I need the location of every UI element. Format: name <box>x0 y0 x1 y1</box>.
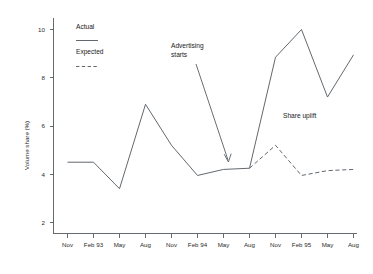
volume-share-line-chart: 10 8 6 4 2 Volume share (%) Nov Feb 93 M… <box>0 0 373 274</box>
x-tick-group: Nov Feb 93 May Aug Nov Feb 94 May Aug No… <box>62 234 360 249</box>
y-tick-label-10: 10 <box>38 26 45 33</box>
y-tick-label-4: 4 <box>42 171 46 178</box>
x-tick-label-0: Nov <box>62 241 74 248</box>
legend-label-expected: Expected <box>76 48 104 56</box>
x-tick-label-8: Nov <box>270 241 282 248</box>
y-tick-group: 10 8 6 4 2 <box>38 26 53 226</box>
x-tick-label-9: Feb 95 <box>292 241 312 248</box>
annotation-advertising-starts-line1: Advertising <box>171 42 204 50</box>
series-line-expected <box>250 145 354 175</box>
legend-label-actual: Actual <box>76 23 95 30</box>
x-tick-label-7: Aug <box>244 241 256 248</box>
y-axis-title: Volume share (%) <box>23 121 30 170</box>
x-tick-label-3: Aug <box>140 241 152 248</box>
annotation-advertising-starts: Advertising starts <box>171 42 231 162</box>
x-tick-label-6: May <box>218 241 231 248</box>
annotation-share-uplift: Share uplift <box>283 112 317 120</box>
x-tick-label-1: Feb 93 <box>84 241 104 248</box>
y-tick-label-6: 6 <box>42 122 46 129</box>
x-tick-label-2: May <box>114 241 127 248</box>
y-tick-label-2: 2 <box>42 219 46 226</box>
chart-canvas: 10 8 6 4 2 Volume share (%) Nov Feb 93 M… <box>0 0 373 274</box>
y-tick-label-8: 8 <box>42 74 46 81</box>
x-tick-label-11: Aug <box>348 241 360 248</box>
annotation-share-uplift-label: Share uplift <box>283 112 317 120</box>
x-tick-label-4: Nov <box>166 241 178 248</box>
annotation-arrow-line <box>196 64 228 160</box>
series-line-actual <box>68 30 354 189</box>
x-tick-label-10: May <box>322 241 335 248</box>
x-tick-label-5: Feb 94 <box>188 241 208 248</box>
chart-legend: Actual Expected <box>76 23 104 67</box>
annotation-advertising-starts-line2: starts <box>171 51 188 58</box>
